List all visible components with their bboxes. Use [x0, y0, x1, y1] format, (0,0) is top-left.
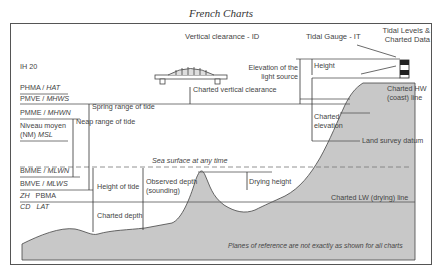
- label-observed-depth: Observed depth (sounding): [146, 178, 197, 195]
- label-ih: IH 20: [20, 63, 37, 72]
- label-spring-range: Spring range of tide: [92, 103, 155, 112]
- label-charted-hw: Charted HW (coast) line: [387, 85, 427, 102]
- label-sea-surface: Sea surface at any time: [152, 157, 228, 166]
- label-elevation-light: Elevation of the light source: [236, 64, 298, 81]
- label-footnote: Planes of reference are not exactly as s…: [228, 242, 403, 251]
- label-bmve-mlws: BMVE / MLWS: [20, 180, 68, 189]
- seabed-land-shape: [22, 83, 415, 260]
- label-bmme-mlwn: BMME / MLWN: [20, 167, 69, 176]
- label-height-of-tide: Height of tide: [97, 183, 139, 192]
- lighthouse-icon: [400, 60, 409, 78]
- label-zh-pbma: ZH PBMA: [20, 192, 56, 201]
- label-niveau-moyen: Niveau moyen (NM) MSL: [20, 122, 66, 139]
- label-charted-lw: Charted LW (drying) line: [331, 194, 408, 203]
- label-tidal-gauge: Tidal Gauge - IT: [306, 33, 361, 42]
- label-pmve-mhws: PMVE / MHWS: [20, 95, 69, 104]
- label-charted-vertical-clearance: Charted vertical clearance: [193, 86, 277, 95]
- label-phma-hat: PHMA / HAT: [20, 84, 60, 93]
- label-land-survey-datum: Land survey datum: [362, 137, 423, 146]
- label-charted-depth: Charted depth: [97, 212, 143, 221]
- bridge-icon: [155, 67, 227, 84]
- label-cd-lat: CD LAT: [20, 203, 49, 212]
- label-pmme-mhwn: PMME / MHWN: [20, 109, 71, 118]
- label-neap-range: Neap range of tide: [76, 118, 135, 127]
- label-charted-elevation: Charted elevation: [314, 113, 343, 130]
- label-vertical-clearance: Vertical clearance - ID: [185, 33, 259, 42]
- label-drying-height: Drying height: [249, 178, 291, 187]
- label-tidal-levels: Tidal Levels & Charted Data: [370, 27, 430, 44]
- label-height: Height: [314, 62, 335, 71]
